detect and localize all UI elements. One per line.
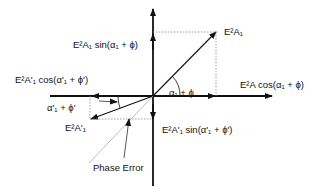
label-cos-prime-component: E²A'₁ cos(α'₁ + ϕ')	[15, 75, 88, 85]
label-sin-component: E²A₁ sin(α₁ + ϕ)	[73, 40, 138, 50]
label-sin-prime-component: E²A'₁ sin(α'₁ + ϕ')	[162, 125, 232, 135]
angle-a1prime-pointer	[99, 101, 117, 102]
label-angle-a1-prime: α'₁ + ϕ'	[47, 103, 75, 113]
label-cos-component: E²A cos(α₁ + ϕ)	[240, 80, 304, 90]
phase-error-line	[89, 96, 153, 163]
phasor-diagram	[0, 0, 325, 194]
label-vector-a1: E²A₁	[224, 27, 243, 37]
label-phase-error: Phase Error	[93, 163, 144, 173]
label-angle-a1: α₁ + ϕ	[169, 88, 194, 98]
label-vector-a1-prime: E²A'₁	[65, 123, 86, 133]
phase-error-pointer	[124, 119, 129, 158]
vector-a1-prime	[91, 96, 153, 119]
angle-arc-a1prime	[118, 96, 120, 108]
